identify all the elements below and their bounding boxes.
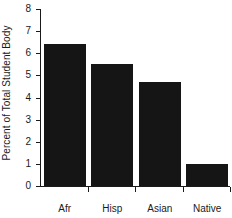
y-axis-tick: 6	[36, 53, 41, 54]
y-axis-tick-label: 0	[25, 179, 31, 192]
y-axis-tick-label: 8	[25, 2, 31, 15]
y-axis-tick-label: 2	[25, 135, 31, 148]
y-axis-tick-label: 4	[25, 91, 31, 104]
x-axis-tick	[88, 187, 89, 192]
y-axis-label: Percent of Total Student Body	[0, 0, 14, 186]
bar	[139, 82, 181, 186]
y-axis-tick-label: 6	[25, 46, 31, 59]
x-axis-tick	[183, 187, 184, 192]
y-axis-tick: 7	[36, 31, 41, 32]
y-axis-tick: 0	[36, 186, 41, 187]
y-axis-tick: 4	[36, 98, 41, 99]
y-axis-tick-label: 5	[25, 68, 31, 81]
bar-chart: Percent of Total Student Body 012345678 …	[0, 0, 232, 218]
y-axis-tick: 5	[36, 75, 41, 76]
x-axis-tick	[135, 187, 136, 192]
y-axis-tick: 3	[36, 120, 41, 121]
bar	[91, 64, 133, 186]
bar	[44, 44, 86, 186]
y-axis-tick-label: 3	[25, 113, 31, 126]
y-axis-tick-label: 1	[25, 157, 31, 170]
y-axis-tick: 2	[36, 142, 41, 143]
y-axis-tick: 1	[36, 164, 41, 165]
x-axis-category-label: Asian	[136, 202, 184, 215]
x-axis-category-label: Afr	[41, 202, 89, 215]
plot-area: 012345678 AfrHispAsianNative	[40, 9, 230, 187]
x-axis-category-label: Native	[184, 202, 232, 215]
x-axis-category-label: Hisp	[89, 202, 137, 215]
y-axis-tick-label: 7	[25, 24, 31, 37]
y-axis-tick: 8	[36, 9, 41, 10]
bar	[186, 164, 228, 186]
x-axis-tick	[230, 187, 231, 192]
